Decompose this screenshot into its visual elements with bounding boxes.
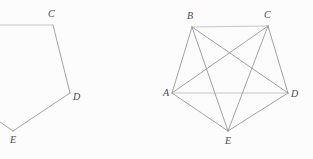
vertex-label-d: D — [290, 88, 299, 99]
vertex-label-b: B — [187, 10, 193, 21]
vertex-label-a: A — [162, 87, 170, 98]
canvas-background — [0, 0, 313, 159]
vertex-label-c: C — [48, 8, 55, 19]
vertex-label-e: E — [9, 134, 16, 145]
vertex-label-d: D — [72, 91, 81, 102]
vertex-label-e: E — [224, 135, 231, 146]
vertex-label-c: C — [264, 9, 271, 20]
figure-canvas: CDE ABCDE — [0, 0, 313, 159]
